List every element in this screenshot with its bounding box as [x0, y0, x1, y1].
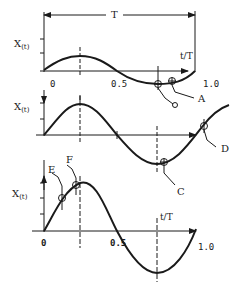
x-axis-label-bottom: t/T: [160, 213, 173, 222]
y-axis-label-top: X(t): [14, 39, 29, 51]
y-axis-label-bottom: X(t): [12, 189, 27, 201]
wave-diagram: T X(t) t/T 0 0.5 1.0 A X(t) C D X(t) E F…: [0, 0, 241, 292]
tick-0.5-top: 0.5: [111, 80, 127, 89]
marker-label-A: A: [198, 94, 205, 104]
tick-1.0-bottom: 1.0: [198, 243, 214, 252]
marker-label-C: C: [177, 187, 185, 197]
x-axis-label-top: t/T: [180, 52, 193, 61]
period-dimension: [44, 11, 195, 72]
tick-1.0-top: 1.0: [203, 80, 219, 89]
tick-0-top: 0: [50, 80, 55, 89]
panel-top: [40, 12, 195, 108]
y-label-sub: (t): [21, 106, 29, 114]
marker-label-F: F: [66, 155, 73, 165]
marker-label-D: D: [221, 144, 229, 154]
panel-middle: [36, 96, 229, 185]
period-label: T: [111, 10, 118, 20]
marker-label-E: E: [48, 165, 55, 175]
tick-0-bottom: 0: [41, 239, 46, 248]
tick-0.5-bottom: 0.5: [110, 239, 126, 248]
wave-curve: [44, 182, 196, 273]
y-label-sub: (t): [19, 193, 27, 201]
y-axis-label-middle: X(t): [14, 102, 29, 114]
y-label-sub: (t): [21, 43, 29, 51]
